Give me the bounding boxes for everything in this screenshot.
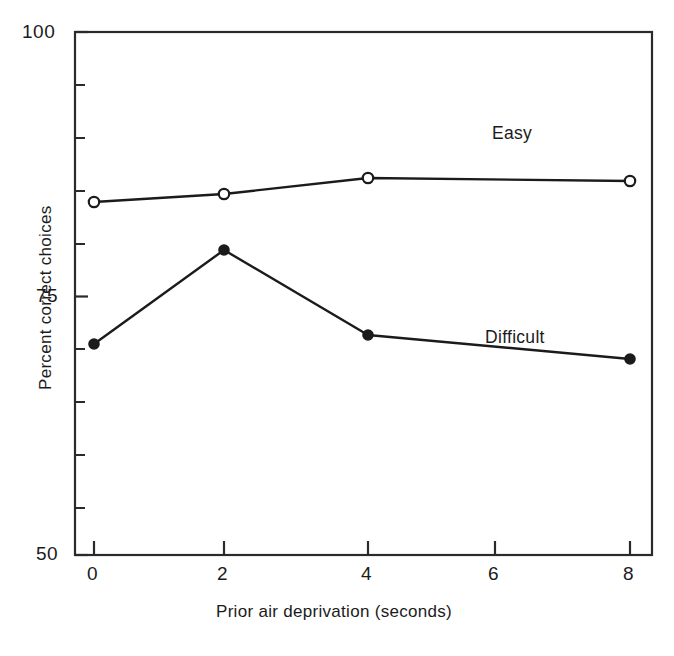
x-tick-label-4: 4 [361,563,372,585]
line-chart-plot [0,0,674,656]
series-line-easy [94,178,630,202]
x-tick-label-6: 6 [488,563,499,585]
x-tick-label-8: 8 [623,563,634,585]
x-axis-title: Prior air deprivation (seconds) [216,602,452,622]
x-axis-ticks [94,541,630,555]
x-tick-label-2: 2 [217,563,228,585]
x-tick-label-0: 0 [87,563,98,585]
plot-frame [75,32,652,555]
series-label-easy: Easy [492,123,532,144]
y-axis-major-ticks [75,32,88,555]
series-line-difficult [94,250,630,359]
series-markers-easy [89,173,635,207]
chart-figure: 100 75 50 0 2 4 6 8 Percent correct choi… [0,0,674,656]
y-tick-label-50: 50 [36,543,58,565]
y-axis-title: Percent correct choices [36,205,56,390]
series-label-difficult: Difficult [485,327,545,348]
series-markers-difficult [89,245,635,364]
y-tick-label-100: 100 [22,21,55,43]
